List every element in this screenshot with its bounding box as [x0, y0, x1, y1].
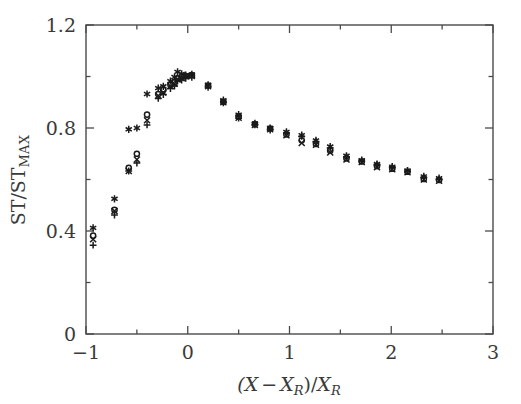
y-tick-label: 1.2 [46, 14, 76, 36]
y-tick-label: 0 [64, 323, 76, 345]
scatter-plot: −1012300.40.81.2 (X−XR)/XR ST/STMAX [0, 0, 521, 404]
figure-container: −1012300.40.81.2 (X−XR)/XR ST/STMAX [0, 0, 521, 404]
x-tick-label: 2 [385, 341, 397, 363]
x-axis-title: (X−XR)/XR [237, 373, 341, 398]
x-tick-label: 3 [487, 341, 499, 363]
x-tick-label: 0 [182, 341, 194, 363]
y-tick-label: 0.8 [46, 117, 76, 139]
x-tick-label: 1 [283, 341, 295, 363]
svg-text:(X−XR)/XR: (X−XR)/XR [237, 373, 341, 398]
y-tick-label: 0.4 [46, 220, 76, 242]
x-tick-label: −1 [72, 341, 100, 363]
